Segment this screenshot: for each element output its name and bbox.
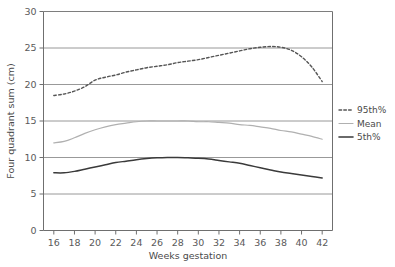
series-line-mean	[54, 121, 322, 143]
legend-label-mean: Mean	[357, 119, 382, 129]
growth-percentile-chart: 051015202530 161820222426283032343638404…	[0, 0, 395, 267]
series-line-95th-	[54, 47, 322, 96]
x-tick-label-18: 18	[68, 237, 80, 248]
x-tick-label-40: 40	[295, 237, 307, 248]
y-tick-label-0: 0	[30, 225, 36, 236]
x-tick-label-38: 38	[275, 237, 287, 248]
x-tick-label-20: 20	[89, 237, 101, 248]
legend-label-5th-: 5th%	[357, 132, 381, 142]
grid-lines	[44, 12, 333, 195]
x-tick-label-30: 30	[192, 237, 204, 248]
legend: 95th%Mean5th%	[339, 105, 387, 142]
y-tick-label-5: 5	[30, 188, 36, 199]
x-tick-label-36: 36	[254, 237, 266, 248]
x-tick-label-16: 16	[48, 237, 60, 248]
y-tick-label-25: 25	[24, 42, 36, 53]
y-axis-title: Four quadrant sum (cm)	[5, 63, 16, 178]
y-axis: 051015202530	[24, 6, 43, 236]
x-tick-label-42: 42	[316, 237, 328, 248]
x-axis-title: Weeks gestation	[149, 250, 228, 261]
y-tick-label-30: 30	[24, 6, 36, 17]
x-tick-label-32: 32	[213, 237, 225, 248]
x-tick-label-22: 22	[110, 237, 122, 248]
series-line-5th-	[54, 157, 322, 177]
x-tick-label-26: 26	[151, 237, 163, 248]
y-tick-label-10: 10	[24, 152, 36, 163]
x-axis: 1618202224262830323436384042	[44, 231, 333, 248]
x-tick-label-24: 24	[130, 237, 142, 248]
y-tick-label-20: 20	[24, 79, 36, 90]
y-tick-label-15: 15	[24, 115, 36, 126]
data-series	[54, 47, 322, 178]
legend-label-95th-: 95th%	[357, 105, 387, 115]
x-tick-label-28: 28	[172, 237, 184, 248]
chart-container: 051015202530 161820222426283032343638404…	[0, 0, 395, 267]
x-tick-label-34: 34	[234, 237, 246, 248]
